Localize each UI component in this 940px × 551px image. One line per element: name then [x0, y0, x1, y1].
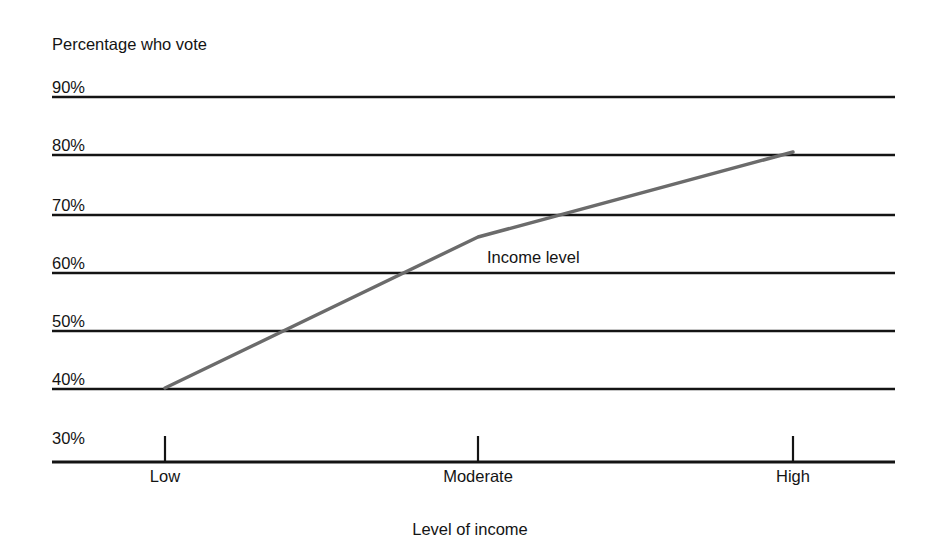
- series-annotation-income-level: Income level: [487, 249, 580, 266]
- y-tick-label-50: 50%: [52, 313, 85, 330]
- y-tick-label-30: 30%: [52, 430, 85, 447]
- data-line-income-level: [165, 152, 793, 388]
- gridlines: [52, 97, 895, 389]
- x-axis-title: Level of income: [0, 521, 940, 538]
- y-tick-label-90: 90%: [52, 79, 85, 96]
- x-axis-ticks: [165, 436, 793, 462]
- chart-figure: Percentage who vote 90% 80% 70% 60% 50% …: [0, 0, 940, 551]
- y-tick-label-60: 60%: [52, 255, 85, 272]
- x-tick-label-low: Low: [150, 468, 180, 485]
- y-tick-label-70: 70%: [52, 197, 85, 214]
- y-tick-label-80: 80%: [52, 137, 85, 154]
- x-tick-label-high: High: [776, 468, 810, 485]
- x-tick-label-moderate: Moderate: [443, 468, 513, 485]
- y-tick-label-40: 40%: [52, 371, 85, 388]
- y-axis-title: Percentage who vote: [52, 36, 207, 53]
